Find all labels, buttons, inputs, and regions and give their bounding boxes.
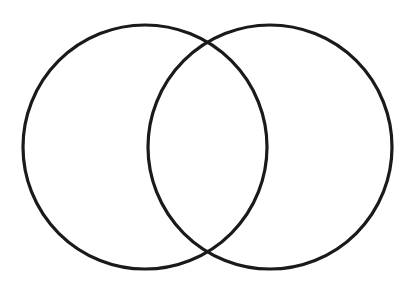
venn-diagram	[0, 0, 409, 292]
